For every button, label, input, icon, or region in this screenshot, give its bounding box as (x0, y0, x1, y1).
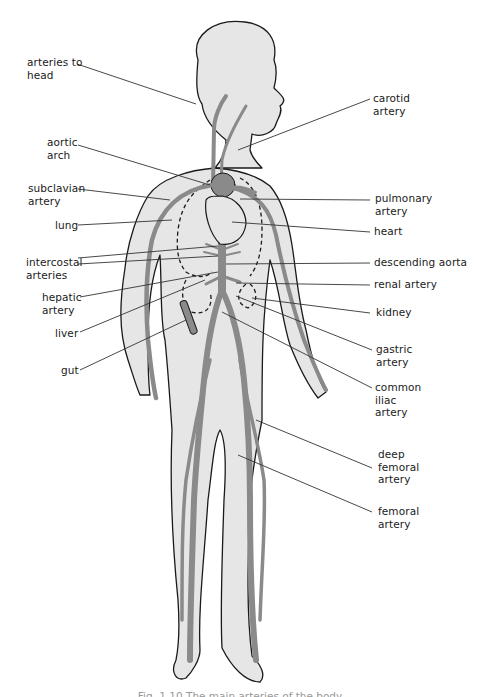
label-subclavian-artery: subclavian artery (28, 182, 85, 207)
label-carotid-artery: carotid artery (373, 92, 410, 117)
label-femoral-artery: femoral artery (378, 505, 419, 530)
label-lung: lung (55, 219, 78, 232)
label-heart: heart (374, 225, 402, 238)
label-gut: gut (61, 364, 79, 377)
label-gastric-artery: gastric artery (376, 343, 412, 368)
label-hepatic-artery: hepatic artery (42, 291, 82, 316)
label-kidney: kidney (376, 306, 412, 319)
label-descending-aorta: descending aorta (374, 256, 467, 269)
label-renal-artery: renal artery (374, 278, 437, 291)
figure-caption: Fig. 1.10 The main arteries of the body (0, 690, 480, 697)
label-liver: liver (55, 327, 78, 340)
label-intercostal-arteries: intercostal arteries (26, 256, 82, 281)
label-pulmonary-artery: pulmonary artery (375, 192, 432, 217)
label-common-iliac-artery: common iliac artery (375, 381, 421, 419)
artery-diagram: arteries to head aortic arch subclavian … (0, 0, 480, 697)
label-arteries-to-head: arteries to head (27, 56, 82, 81)
label-deep-femoral-artery: deep femoral artery (378, 448, 419, 486)
label-aortic-arch: aortic arch (47, 136, 78, 161)
body-outline (121, 21, 326, 682)
